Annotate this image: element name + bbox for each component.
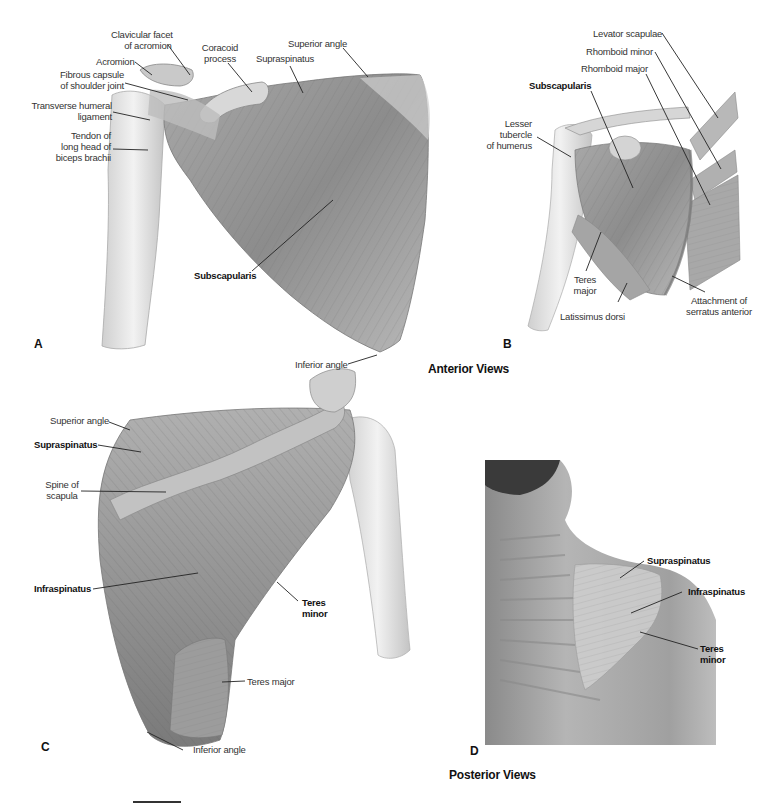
label-teres-major-c: Teres major	[247, 676, 294, 687]
label-tendon-biceps: Tendon of long head of biceps brachii	[40, 130, 111, 163]
label-subscapularis-b: Subscapularis	[529, 80, 591, 91]
label-line: Spine of	[42, 479, 82, 490]
label-supraspinatus-c: Supraspinatus	[34, 439, 97, 450]
panel-a-illustration	[102, 64, 430, 352]
label-line: of humerus	[480, 140, 532, 151]
label-infraspinatus-d: Infraspinatus	[688, 586, 745, 597]
label-acromion: Acromion	[96, 56, 135, 67]
label-supraspinatus-a: Supraspinatus	[256, 53, 314, 64]
label-superior-angle-c: Superior angle	[50, 415, 109, 426]
label-line: ligament	[20, 111, 112, 122]
label-serratus-anterior: Attachment of serratus anterior	[683, 295, 755, 317]
label-levator-scapulae: Levator scapulae	[593, 28, 662, 39]
label-infraspinatus-c: Infraspinatus	[34, 583, 91, 594]
label-fibrous-capsule: Fibrous capsule of shoulder joint	[60, 69, 124, 91]
label-line: process	[200, 53, 240, 64]
label-line: Teres	[700, 643, 725, 654]
label-line: Transverse humeral	[20, 100, 112, 111]
caption-posterior-views: Posterior Views	[449, 768, 536, 782]
label-line: Teres	[302, 597, 327, 608]
panel-d-photo	[485, 460, 716, 745]
label-line: major	[570, 285, 600, 296]
label-line: Lesser	[480, 118, 532, 129]
label-line: Tendon of	[40, 130, 111, 141]
label-teres-minor-c: Teres minor	[302, 597, 327, 619]
label-line: of acromion	[111, 40, 173, 51]
panel-letter-a: A	[34, 337, 43, 351]
label-latissimus-dorsi: Latissimus dorsi	[560, 311, 625, 322]
label-lesser-tubercle: Lesser tubercle of humerus	[480, 118, 532, 151]
label-rhomboid-minor: Rhomboid minor	[586, 46, 653, 57]
label-line: serratus anterior	[683, 306, 755, 317]
label-superior-angle-a: Superior angle	[288, 38, 347, 49]
label-line: Attachment of	[683, 295, 755, 306]
label-coracoid-process: Coracoid process	[200, 42, 240, 64]
label-line: scapula	[42, 490, 82, 501]
label-line: of shoulder joint	[60, 80, 124, 91]
panel-c-illustration	[98, 369, 410, 747]
label-line: minor	[302, 608, 327, 619]
label-subscapularis-a: Subscapularis	[194, 270, 256, 281]
label-line: Teres	[570, 274, 600, 285]
label-line: biceps brachii	[40, 152, 111, 163]
panel-letter-d: D	[470, 744, 479, 758]
label-line: long head of	[40, 141, 111, 152]
label-clavicular-facet: Clavicular facet of acromion	[111, 29, 173, 51]
anatomy-figure: Clavicular facet of acromion Acromion Fi…	[0, 0, 779, 803]
label-rhomboid-major: Rhomboid major	[581, 63, 648, 74]
label-spine-of-scapula: Spine of scapula	[42, 479, 82, 501]
label-transverse-humeral-ligament: Transverse humeral ligament	[20, 100, 112, 122]
caption-anterior-views: Anterior Views	[428, 362, 509, 376]
label-teres-major-b: Teres major	[570, 274, 600, 296]
label-line: Fibrous capsule	[60, 69, 124, 80]
illustration-layer	[0, 0, 779, 803]
label-line: tubercle	[480, 129, 532, 140]
label-teres-minor-d: Teres minor	[700, 643, 725, 665]
label-line: minor	[700, 654, 725, 665]
panel-letter-b: B	[503, 337, 512, 351]
label-inferior-angle-c: Inferior angle	[193, 744, 246, 755]
label-line: Coracoid	[200, 42, 240, 53]
label-supraspinatus-d: Supraspinatus	[647, 555, 710, 566]
label-line: Clavicular facet	[111, 29, 173, 40]
label-inferior-angle-a: Inferior angle	[295, 359, 348, 370]
panel-letter-c: C	[41, 740, 50, 754]
